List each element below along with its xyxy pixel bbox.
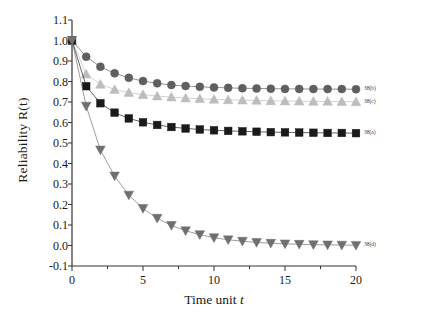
chart-figure: Reliability R(t) Time unit t -0.10.00.10… [0,0,426,317]
data-point-marker [181,227,191,236]
data-point-marker [111,69,119,77]
data-point-marker [267,85,275,93]
data-point-marker [351,241,361,250]
series-line [72,41,356,90]
data-point-marker [295,85,303,93]
data-point-marker [139,77,147,85]
data-point-marker [82,82,90,90]
data-point-marker [210,83,218,91]
data-point-marker [125,115,133,123]
data-point-marker [110,85,120,94]
data-point-marker [224,84,232,92]
data-point-marker [110,172,120,181]
series-38b [68,37,360,94]
data-point-marker [267,128,275,136]
data-point-marker [196,83,204,91]
data-point-marker [323,97,333,106]
data-point-marker [182,125,190,133]
data-point-marker [310,129,318,137]
legend-label-38d: 38(d) [364,242,376,248]
legend-label-38c: 38(c) [364,99,376,105]
data-point-marker [239,128,247,136]
data-point-marker [96,80,106,89]
data-point-marker [167,222,177,231]
data-point-marker [337,241,347,250]
data-point-marker [281,129,289,137]
data-point-marker [153,79,161,87]
data-point-marker [280,96,290,105]
data-point-marker [295,129,303,137]
data-point-marker [309,97,319,106]
data-point-marker [309,241,319,250]
data-point-marker [323,241,333,250]
data-point-marker [210,126,218,134]
data-point-marker [238,84,246,92]
data-point-marker [338,85,346,93]
data-point-marker [352,85,360,93]
data-point-marker [111,109,119,117]
data-point-marker [153,121,161,129]
data-point-marker [97,99,105,107]
data-point-marker [253,128,261,136]
data-point-marker [352,129,360,137]
data-point-marker [337,97,347,106]
data-point-marker [294,96,304,105]
plot-canvas [0,0,426,317]
data-point-marker [224,127,232,135]
data-point-marker [125,74,133,82]
data-point-marker [152,214,162,223]
data-point-marker [182,82,190,90]
series-38d [67,37,361,250]
data-point-marker [96,146,106,155]
data-point-marker [253,84,261,92]
data-point-marker [81,102,91,111]
data-point-marker [82,53,90,61]
data-point-marker [196,126,204,134]
data-point-marker [168,123,176,131]
legend-label-38b: 38(b) [364,86,376,92]
data-point-marker [351,97,361,106]
data-point-marker [281,85,289,93]
data-point-marker [96,63,104,71]
data-point-marker [338,129,346,137]
data-point-marker [167,81,175,89]
data-point-marker [252,96,262,105]
data-point-marker [309,85,317,93]
legend-label-38a: 38(a) [364,130,376,136]
data-point-marker [139,118,147,126]
series-38c [67,36,361,106]
data-point-marker [138,204,148,213]
data-point-marker [324,129,332,137]
data-point-marker [324,85,332,93]
